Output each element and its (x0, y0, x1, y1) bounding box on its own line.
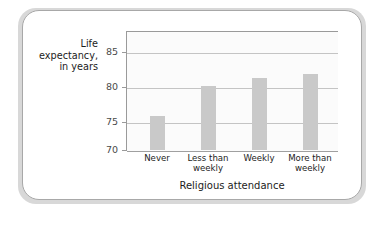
y-axis-title-line-2: expectancy, (18, 50, 98, 62)
y-axis-title-line-3: in years (18, 61, 98, 73)
bar-more-than-weekly[interactable] (303, 74, 318, 150)
bar-weekly[interactable] (252, 78, 267, 150)
bar-never[interactable] (150, 116, 165, 150)
x-tick-label-more-than-weekly: More than weekly (279, 153, 341, 173)
x-tick-labels: Never Less than weekly Weekly More than … (126, 153, 338, 179)
y-tick-label-wrap-75: 75 (96, 117, 118, 127)
y-tick-label-70: 70 (96, 145, 118, 155)
bar-chart: Life expectancy, in years 85 80 75 70 (0, 0, 382, 228)
y-tick-label-85: 85 (96, 47, 118, 57)
y-tick-label-wrap-85: 85 (96, 47, 118, 57)
x-axis-title: Religious attendance (126, 180, 338, 191)
bars-layer (126, 31, 338, 151)
y-tick-label-80: 80 (96, 82, 118, 92)
y-axis-title: Life expectancy, in years (18, 38, 98, 73)
y-tick-label-75: 75 (96, 117, 118, 127)
bar-less-than-weekly[interactable] (201, 86, 216, 150)
x-tick-label-less-than-weekly-line-2: weekly (177, 163, 239, 173)
y-tick-label-wrap-80: 80 (96, 82, 118, 92)
x-tick-label-more-than-weekly-line-2: weekly (279, 163, 341, 173)
y-tick-label-wrap-70: 70 (96, 145, 118, 155)
gridline-70-baseline (127, 151, 338, 152)
figure-root: Life expectancy, in years 85 80 75 70 (0, 0, 382, 228)
y-axis-title-line-1: Life (18, 38, 98, 50)
x-tick-label-more-than-weekly-line-1: More than (279, 153, 341, 163)
